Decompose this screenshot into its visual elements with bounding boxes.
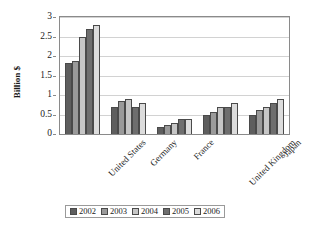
legend-label: 2004: [141, 207, 158, 216]
bar: [178, 119, 185, 134]
bar: [171, 123, 178, 134]
legend-swatch-icon: [194, 208, 201, 215]
legend-swatch-icon: [163, 208, 170, 215]
legend-swatch-icon: [101, 208, 108, 215]
bar: [132, 107, 139, 134]
x-axis-category-labels: United StatesGermanyFranceUnited Kingdom…: [0, 136, 311, 198]
bar-chart: Billion $ 00.511.522.53 United StatesGer…: [0, 0, 311, 232]
bar: [185, 119, 192, 134]
legend-item-2005[interactable]: 2005: [163, 207, 189, 216]
legend-label: 2002: [79, 207, 96, 216]
bar: [263, 107, 270, 134]
bar-group: [197, 17, 243, 134]
bar: [79, 37, 86, 134]
legend-label: 2005: [172, 207, 189, 216]
bar: [256, 110, 263, 134]
bar: [118, 101, 125, 134]
x-label-united-states: United States: [107, 138, 147, 178]
bar: [65, 63, 72, 134]
legend-label: 2006: [203, 207, 220, 216]
y-tick-mark: [53, 95, 56, 96]
y-tick-label: 1.5: [40, 71, 52, 81]
bar: [86, 29, 93, 134]
y-tick-mark: [53, 115, 56, 116]
y-tick-mark: [53, 37, 56, 38]
y-tick-label: 2: [47, 51, 52, 61]
y-tick-label: 0.5: [40, 110, 52, 120]
legend-item-2006[interactable]: 2006: [194, 207, 220, 216]
legend-item-2004[interactable]: 2004: [132, 207, 158, 216]
bar: [224, 107, 231, 134]
bar-group: [106, 17, 152, 134]
y-tick-label: 2.5: [40, 32, 52, 42]
bar: [157, 127, 164, 134]
bar-group: [243, 17, 289, 134]
bar: [217, 107, 224, 134]
y-tick-mark: [53, 76, 56, 77]
bar-group: [152, 17, 198, 134]
legend-item-2002[interactable]: 2002: [70, 207, 96, 216]
legend-swatch-icon: [132, 208, 139, 215]
legend-swatch-icon: [70, 208, 77, 215]
bar: [277, 99, 284, 134]
bar: [125, 99, 132, 134]
bar-group: [60, 17, 106, 134]
legend-label: 2003: [110, 207, 127, 216]
bar: [249, 115, 256, 134]
y-axis-tick-labels: 00.511.522.53: [26, 16, 56, 135]
bar: [231, 103, 238, 134]
x-label-germany: Germany: [148, 138, 178, 168]
y-tick-mark: [53, 17, 56, 18]
bar: [111, 107, 118, 134]
legend: 20022003200420052006: [65, 205, 225, 218]
bars-layer: [60, 17, 289, 134]
bar: [210, 112, 217, 134]
bar: [164, 125, 171, 134]
x-label-france: France: [192, 138, 216, 162]
bar: [203, 115, 210, 135]
y-axis-title: Billion $: [12, 52, 22, 112]
bar: [93, 25, 100, 134]
y-tick-label: 3: [47, 12, 52, 22]
y-tick-mark: [53, 56, 56, 57]
y-tick-mark: [53, 134, 56, 135]
bar: [72, 61, 79, 134]
bar: [270, 103, 277, 134]
y-tick-label: 1: [47, 90, 52, 100]
legend-item-2003[interactable]: 2003: [101, 207, 127, 216]
bar: [139, 103, 146, 134]
